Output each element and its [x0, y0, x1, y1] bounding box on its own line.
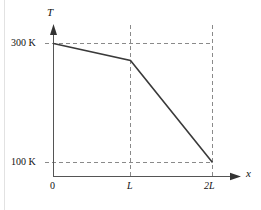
x-tick-label-origin: 0	[50, 181, 55, 191]
y-axis-arrowhead-icon	[50, 24, 57, 35]
y-tick-label-300k: 300 K	[11, 38, 36, 48]
plot-canvas	[0, 0, 261, 210]
x-axis-title: x	[246, 168, 251, 179]
temperature-plot-figure: T x 300 K 100 K 0 L 2L	[0, 0, 261, 210]
x-tick-label-L: L	[127, 181, 133, 191]
y-tick-label-100k: 100 K	[11, 157, 36, 167]
temperature-profile-line	[54, 44, 213, 163]
y-axis-title: T	[47, 7, 53, 18]
x-tick-label-2L: 2L	[204, 181, 215, 191]
x-axis-arrowhead-icon	[230, 173, 241, 180]
